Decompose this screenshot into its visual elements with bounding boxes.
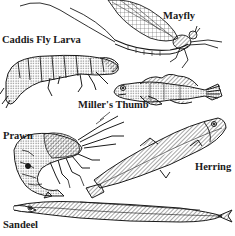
illustration-canvas: Caddis Fly Larva Mayfly Miller's Thumb P… bbox=[0, 0, 235, 236]
label-mayfly: Mayfly bbox=[163, 11, 195, 22]
label-caddis-fly-larva: Caddis Fly Larva bbox=[2, 35, 81, 46]
herring-fish-drawing bbox=[86, 118, 226, 198]
label-millers-thumb: Miller's Thumb bbox=[78, 100, 149, 111]
label-sandeel: Sandeel bbox=[3, 220, 38, 231]
sandeel-fish-drawing bbox=[14, 202, 232, 223]
label-prawn: Prawn bbox=[3, 131, 33, 142]
label-herring: Herring bbox=[195, 162, 231, 173]
